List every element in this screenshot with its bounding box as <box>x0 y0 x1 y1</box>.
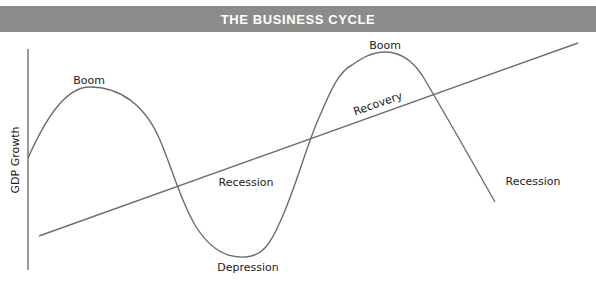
trend-line <box>39 43 578 236</box>
label-recession-1: Recession <box>219 176 274 189</box>
y-axis-label: GDP Growth <box>9 127 22 194</box>
label-boom-1: Boom <box>73 74 105 87</box>
label-depression: Depression <box>217 261 279 274</box>
label-boom-2: Boom <box>369 39 401 52</box>
business-cycle-diagram: GDP Growth Boom Recession Depression Rec… <box>0 0 596 283</box>
label-recession-2: Recession <box>506 175 561 188</box>
